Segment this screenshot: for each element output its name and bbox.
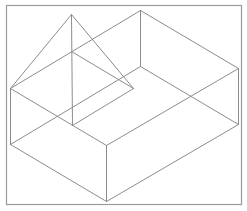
box-bottom-back-right-edge bbox=[141, 67, 239, 125]
pyramid-apex-right-edge bbox=[72, 15, 134, 89]
box-top-front-left-edge bbox=[11, 89, 107, 146]
box-bottom-right-front-edge bbox=[107, 125, 239, 202]
pyramid-apex-vertical-edge bbox=[72, 15, 73, 126]
pyramid-apex-left-edge bbox=[11, 15, 72, 89]
wireframe-edges bbox=[11, 11, 239, 202]
box-top-back-right-edge bbox=[141, 11, 239, 69]
box-bottom-left-back-edge bbox=[11, 67, 141, 145]
box-top-left-back-edge bbox=[11, 11, 141, 89]
pyramid-base-right-front-edge bbox=[73, 89, 134, 126]
isometric-wireframe-diagram bbox=[0, 0, 247, 211]
pyramid-base-back-right-edge bbox=[72, 52, 134, 89]
box-bottom-front-left-edge bbox=[11, 145, 107, 202]
